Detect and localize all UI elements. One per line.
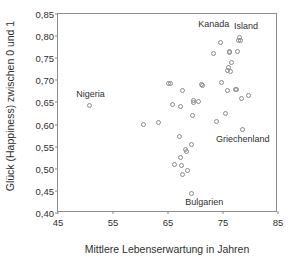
data-point — [225, 88, 230, 93]
data-point — [234, 87, 239, 92]
data-point — [180, 172, 185, 177]
y-axis-title: Glück (Happiness) zwischen 0 und 1 — [2, 0, 18, 212]
data-point — [246, 93, 251, 98]
y-tick-label: 0,45 — [36, 185, 55, 196]
y-tick-mark — [55, 146, 58, 147]
data-point — [200, 83, 205, 88]
data-point — [211, 51, 216, 56]
data-point — [229, 60, 234, 65]
x-tick-label: 85 — [273, 217, 284, 228]
x-tick-label: 55 — [108, 217, 119, 228]
y-tick-label: 0,40 — [36, 208, 55, 219]
data-point — [219, 80, 224, 85]
data-point — [189, 191, 194, 196]
scatter-chart-figure: Glück (Happiness) zwischen 0 und 1 0,400… — [0, 0, 295, 270]
y-tick-mark — [55, 58, 58, 59]
data-point — [189, 142, 194, 147]
x-tick-mark — [168, 211, 169, 214]
x-tick-label: 45 — [53, 217, 64, 228]
y-tick-mark — [55, 36, 58, 37]
data-point — [228, 69, 233, 74]
y-tick-label: 0,75 — [36, 53, 55, 64]
data-point — [177, 134, 182, 139]
y-tick-mark — [55, 102, 58, 103]
plot-area: 0,400,450,500,550,600,650,700,750,800,85… — [57, 13, 277, 212]
data-point — [184, 149, 189, 154]
y-tick-label: 0,55 — [36, 141, 55, 152]
y-tick-label: 0,50 — [36, 163, 55, 174]
y-tick-mark — [55, 14, 58, 15]
data-point — [170, 102, 175, 107]
y-tick-label: 0,65 — [36, 97, 55, 108]
data-point — [168, 81, 173, 86]
y-tick-label: 0,70 — [36, 75, 55, 86]
data-point — [214, 119, 219, 124]
y-tick-label: 0,80 — [36, 31, 55, 42]
point-annotation-label: Island — [234, 21, 258, 31]
point-annotation-label: Nigeria — [76, 89, 105, 99]
data-point — [240, 127, 245, 132]
data-point — [218, 40, 223, 45]
data-point — [190, 113, 195, 118]
data-point — [141, 122, 146, 127]
x-tick-label: 65 — [163, 217, 174, 228]
y-tick-mark — [55, 80, 58, 81]
data-point — [185, 168, 190, 173]
data-point — [196, 99, 201, 104]
x-tick-mark — [223, 211, 224, 214]
y-tick-label: 0,60 — [36, 119, 55, 130]
data-point — [239, 96, 244, 101]
point-annotation-label: Griechenland — [216, 134, 270, 144]
x-tick-mark — [58, 211, 59, 214]
data-point — [172, 162, 177, 167]
data-point — [180, 88, 185, 93]
x-tick-mark — [113, 211, 114, 214]
x-tick-label: 75 — [218, 217, 229, 228]
point-annotation-label: Kanada — [198, 19, 229, 29]
point-annotation-label: Bulgarien — [185, 197, 223, 207]
data-point — [87, 103, 92, 108]
data-point — [178, 155, 183, 160]
data-point — [238, 38, 243, 43]
data-point — [223, 111, 228, 116]
x-axis-title: Mittlere Lebenserwartung in Jahren — [57, 243, 277, 255]
data-point — [156, 120, 161, 125]
x-tick-mark — [278, 211, 279, 214]
y-tick-label: 0,85 — [36, 9, 55, 20]
y-tick-mark — [55, 124, 58, 125]
data-point — [178, 104, 183, 109]
data-point — [235, 49, 240, 54]
data-point — [179, 163, 184, 168]
y-tick-mark — [55, 190, 58, 191]
y-tick-mark — [55, 168, 58, 169]
